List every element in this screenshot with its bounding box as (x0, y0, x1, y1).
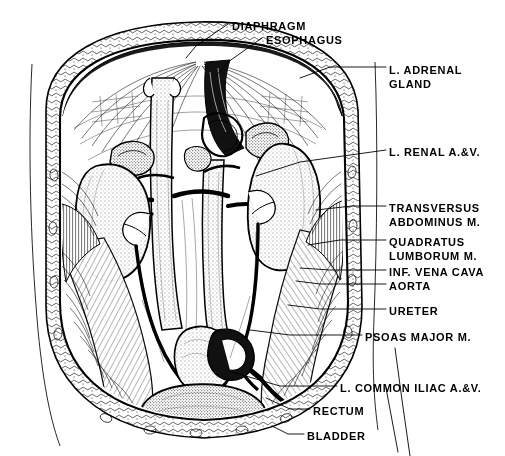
label-esophagus: ESOPHAGUS (266, 34, 343, 47)
skin-right-contour (373, 62, 378, 430)
label-quadratus-line2: LUMBORUM M. (389, 250, 477, 263)
label-adrenal-line2: GLAND (389, 78, 432, 91)
illustration-stage: DIAPHRAGM ESOPHAGUS L. ADRENAL GLAND L. … (0, 0, 505, 456)
label-ureter: URETER (389, 305, 438, 318)
label-bladder: BLADDER (307, 430, 366, 443)
label-transversus-line1: TRANSVERSUS (389, 202, 480, 215)
label-psoas: PSOAS MAJOR M. (365, 331, 471, 344)
label-vena-cava: INF. VENA CAVA (389, 266, 484, 279)
label-quadratus-line1: QUADRATUS (389, 236, 465, 249)
leader-long-right (395, 348, 410, 456)
label-common-iliac: L. COMMON ILIAC A.&V. (340, 382, 482, 395)
label-adrenal-line1: L. ADRENAL (389, 64, 462, 77)
leader-iliac-down (386, 388, 398, 452)
label-renal-av: L. RENAL A.&V. (389, 146, 480, 159)
label-aorta: AORTA (389, 280, 431, 293)
central-node (184, 147, 211, 172)
label-rectum: RECTUM (313, 405, 364, 418)
label-diaphragm: DIAPHRAGM (232, 20, 306, 33)
label-transversus-line2: ABDOMINUS M. (389, 216, 481, 229)
leader-bladder (272, 426, 304, 434)
